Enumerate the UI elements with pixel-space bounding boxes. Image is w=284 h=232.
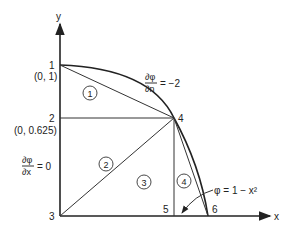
boundary-equation: φ = 1 − x² xyxy=(214,185,258,196)
element-marker-4: 4 xyxy=(177,174,191,188)
edge-3-4 xyxy=(60,118,174,216)
svg-text:= 0: = 0 xyxy=(37,161,52,172)
boundary-equation-arrow xyxy=(182,190,213,213)
svg-text:∂φ: ∂φ xyxy=(145,72,155,82)
svg-text:2: 2 xyxy=(103,160,108,170)
node-2-coord: (0, 0.625) xyxy=(14,125,57,136)
node-5-label: 5 xyxy=(163,204,169,215)
node-1-coord: (0, 1) xyxy=(34,71,57,82)
x-derivative-annotation: ∂φ ∂x = 0 xyxy=(22,155,52,177)
svg-text:∂x: ∂x xyxy=(22,167,31,177)
svg-text:3: 3 xyxy=(141,178,146,188)
node-6-label: 6 xyxy=(212,204,218,215)
svg-text:∂φ: ∂φ xyxy=(22,155,32,165)
element-marker-1: 1 xyxy=(83,86,97,100)
x-axis-label: x xyxy=(274,211,279,222)
svg-text:1: 1 xyxy=(87,89,92,99)
node-1-label: 1 xyxy=(49,60,55,71)
edge-4-6 xyxy=(174,118,208,216)
boundary-curve xyxy=(60,65,208,216)
svg-text:= −2: = −2 xyxy=(160,78,180,89)
y-axis-label: y xyxy=(56,11,61,22)
normal-derivative-annotation: ∂φ ∂n = −2 xyxy=(145,72,180,94)
node-3-label: 3 xyxy=(49,211,55,222)
node-4-label: 4 xyxy=(178,113,184,124)
svg-text:4: 4 xyxy=(181,177,186,187)
node-2-label: 2 xyxy=(49,113,55,124)
finite-element-diagram: y x 1 2 3 4 1 (0, 1) 2 (0, 0.625) 3 4 5 … xyxy=(0,0,284,232)
svg-text:∂n: ∂n xyxy=(145,84,154,94)
element-marker-3: 3 xyxy=(137,175,151,189)
element-marker-2: 2 xyxy=(99,157,113,171)
